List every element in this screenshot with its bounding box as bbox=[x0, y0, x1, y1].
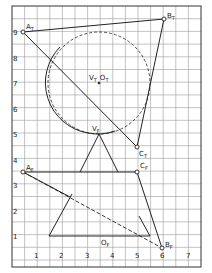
cone-front-lower-right-segment bbox=[139, 216, 150, 236]
y-tick-6: 6 bbox=[13, 106, 18, 114]
point-ct-marker bbox=[135, 145, 139, 149]
grid bbox=[12, 6, 201, 267]
label-vt-ot: VTOT bbox=[89, 74, 109, 83]
x-tick-3: 3 bbox=[85, 252, 89, 260]
y-tick-7: 7 bbox=[13, 80, 17, 88]
label-b-t: BT bbox=[167, 12, 176, 21]
label-c-t: CT bbox=[139, 150, 148, 159]
y-tick-5: 5 bbox=[13, 131, 17, 139]
point-af-marker bbox=[21, 170, 25, 174]
y-tick-8: 8 bbox=[13, 55, 17, 63]
point-bt-marker bbox=[162, 17, 166, 21]
label-c-f: CF bbox=[140, 162, 148, 171]
point-labels: AT BT CT AF CF BF VTOT VF OF bbox=[26, 12, 176, 250]
label-a-f: AF bbox=[26, 164, 34, 173]
x-tick-7: 7 bbox=[186, 252, 190, 260]
edge-at-ct bbox=[23, 32, 137, 147]
edge-af-bf-visible-part bbox=[23, 172, 70, 197]
label-o-f: OF bbox=[101, 239, 110, 248]
apex-point-top bbox=[98, 82, 100, 84]
label-v-f: VF bbox=[92, 125, 100, 134]
label-b-f: BF bbox=[165, 241, 173, 250]
point-at-marker bbox=[21, 30, 25, 34]
grid-frame bbox=[12, 6, 201, 267]
y-tick-9: 9 bbox=[13, 29, 17, 37]
point-cf-marker bbox=[135, 170, 139, 174]
x-tick-5: 5 bbox=[135, 252, 139, 260]
y-tick-3: 3 bbox=[13, 182, 17, 190]
diagram-canvas: 1 2 3 4 5 6 7 1 2 3 4 5 6 7 8 9 bbox=[0, 0, 212, 273]
cone-front-lower bbox=[49, 194, 150, 236]
label-a-t: AT bbox=[26, 23, 35, 32]
edge-at-bt bbox=[23, 19, 164, 32]
point-bf-marker bbox=[160, 246, 164, 250]
cone-front-upper bbox=[80, 134, 118, 172]
y-tick-1: 1 bbox=[13, 233, 17, 241]
x-tick-2: 2 bbox=[59, 252, 63, 260]
x-tick-4: 4 bbox=[110, 252, 115, 260]
x-axis-labels: 1 2 3 4 5 6 7 bbox=[34, 252, 190, 260]
y-tick-2: 2 bbox=[13, 208, 17, 216]
projection-drawing: 1 2 3 4 5 6 7 1 2 3 4 5 6 7 8 9 bbox=[0, 0, 212, 273]
y-tick-4: 4 bbox=[13, 157, 18, 165]
x-tick-1: 1 bbox=[34, 252, 38, 260]
y-axis-labels: 1 2 3 4 5 6 7 8 9 bbox=[13, 29, 18, 241]
x-tick-6: 6 bbox=[160, 252, 165, 260]
